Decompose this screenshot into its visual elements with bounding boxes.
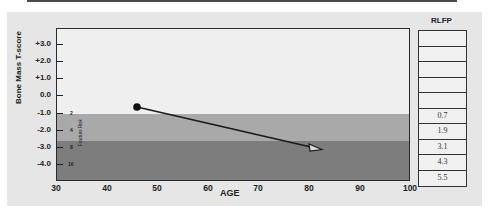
bone-loss-trajectory-line: [137, 107, 313, 148]
rlfp-table: 0.7 1.9 3.1 4.3 5.5: [418, 30, 467, 187]
rlfp-cell: [419, 47, 466, 63]
rlfp-cell: 3.1: [419, 140, 466, 156]
rlfp-cell: [419, 31, 466, 47]
rlfp-cell: [419, 93, 466, 109]
rlfp-cell: [419, 62, 466, 78]
rlfp-title: RLFP: [431, 16, 452, 25]
rlfp-cell: [419, 78, 466, 94]
start-point-marker: [133, 103, 141, 111]
rlfp-cell: 1.9: [419, 124, 466, 140]
arrowhead-icon: [309, 144, 322, 151]
rlfp-cell: 4.3: [419, 155, 466, 171]
rlfp-cell: 0.7: [419, 109, 466, 125]
rlfp-cell: 5.5: [419, 171, 466, 187]
